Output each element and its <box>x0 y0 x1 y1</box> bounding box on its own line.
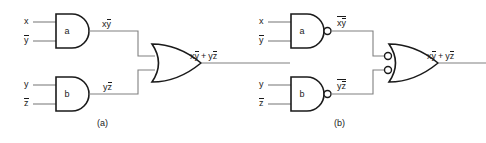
or-gate-a-body[interactable] <box>152 44 201 82</box>
diagram-a: a b <box>33 14 290 111</box>
gate-a-letter: a <box>64 26 69 36</box>
gate-b2-a-letter: a <box>299 26 304 36</box>
gate-b2-b-nand-body[interactable] <box>291 77 324 111</box>
circuit-diagram-svg: a b a <box>0 0 486 143</box>
label-a-gate-a-output: xy <box>102 19 111 29</box>
label-a-output-expression: xy+yz <box>190 51 217 61</box>
wire-b2-a-out-to-or <box>331 31 385 56</box>
wire-a-out-to-or <box>89 31 155 56</box>
label-a-input-x: x <box>24 17 29 26</box>
diagram-b: a b <box>268 14 486 111</box>
or-gate-b-body[interactable] <box>389 44 438 82</box>
label-b-gate-b-output: yz <box>337 79 346 91</box>
gate-b2-b-letter: b <box>299 89 304 99</box>
gate-a-and-body[interactable] <box>56 14 89 48</box>
label-b-input-ybar: y <box>259 35 264 45</box>
gate-b2-a-nand-body[interactable] <box>291 14 324 48</box>
label-b-gate-a-output: xy <box>337 16 346 28</box>
label-a-input-y: y <box>24 80 29 89</box>
label-a-gate-b-output: yz <box>103 82 112 92</box>
label-b-output-expression: xy+yz <box>427 51 454 61</box>
gate-b2-b-output-bubble-icon <box>324 91 331 98</box>
gate-b-letter: b <box>64 89 69 99</box>
label-a-input-ybar: y <box>24 35 29 45</box>
gate-b2-a-output-bubble-icon <box>324 28 331 35</box>
label-b-input-y: y <box>259 80 264 89</box>
caption-a: (a) <box>97 118 108 128</box>
label-a-input-zbar: z <box>24 98 29 108</box>
or-gate-b-input-bubble-bottom-icon <box>385 67 392 74</box>
figure-root: a b a <box>0 0 486 143</box>
gate-b-and-body[interactable] <box>56 77 89 111</box>
label-b-input-zbar: z <box>259 98 264 108</box>
wire-b-out-to-or <box>89 70 155 94</box>
caption-b: (b) <box>334 118 345 128</box>
or-gate-b-input-bubble-top-icon <box>385 53 392 60</box>
label-b-input-x: x <box>259 17 264 26</box>
